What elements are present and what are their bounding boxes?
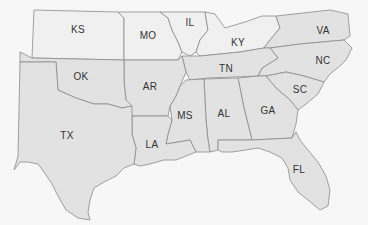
state-label-fl: FL [293,164,305,175]
state-label-ga: GA [260,105,275,116]
state-label-va: VA [316,25,329,36]
state-label-ks: KS [71,24,85,35]
state-label-nc: NC [315,55,330,66]
state-label-tx: TX [60,130,73,141]
state-label-ky: KY [231,37,245,48]
state-fl[interactable] [218,132,330,210]
state-label-ar: AR [143,81,158,92]
state-ks[interactable] [32,10,124,60]
state-label-la: LA [146,139,159,150]
state-label-il: IL [186,17,195,28]
state-label-ms: MS [177,110,193,121]
map-container: KS MO IL KY VA OK AR TN NC SC MS AL GA T… [0,0,368,225]
state-label-al: AL [218,108,231,119]
state-label-sc: SC [293,84,308,95]
state-label-mo: MO [140,30,157,41]
state-label-tn: TN [219,63,233,74]
state-label-ok: OK [73,71,88,82]
